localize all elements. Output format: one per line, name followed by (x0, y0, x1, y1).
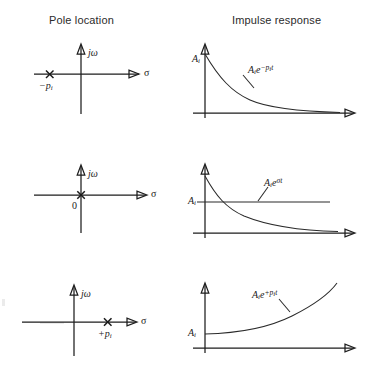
leader-line-row-unstable (279, 299, 290, 312)
curve-label-row-unstable: Aie+pit (252, 288, 277, 301)
row-unstable-graphics (0, 0, 371, 367)
splane-axes-row-unstable (22, 285, 137, 356)
pole-label-row-unstable: +pi (98, 328, 112, 340)
pole-location-impulse-response-figure: Pole location Impulse response jω σ (0, 0, 371, 367)
axis-label-sigma-row-unstable: σ (141, 315, 146, 326)
amplitude-label-row-unstable: Ai (188, 327, 196, 339)
axis-label-jomega-row-unstable: jω (81, 288, 91, 299)
